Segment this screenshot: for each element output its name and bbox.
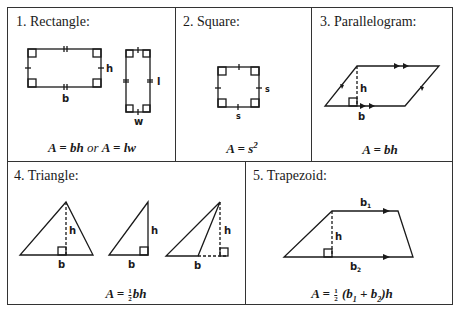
arrow-icon [403, 63, 409, 69]
label-subscript: 2 [357, 266, 361, 273]
label-h: h [360, 83, 367, 94]
arrow-icon [383, 254, 390, 260]
arrow-icon [360, 103, 366, 109]
label-b: b [194, 260, 201, 271]
label-b: b [358, 111, 365, 122]
arrow-icon [383, 208, 390, 214]
label-w: w [134, 116, 143, 127]
square-figure [215, 64, 262, 110]
triangle-right-figure [109, 202, 148, 255]
label-b: b [128, 259, 135, 270]
rectangle-tall-figure [123, 47, 153, 115]
label-h: h [335, 231, 342, 242]
label-h: h [69, 225, 76, 236]
trapezoid-figure [284, 211, 413, 257]
triangle-acute-figure [20, 202, 93, 255]
rectangle-figure [25, 46, 104, 90]
label-h: h [106, 63, 113, 74]
label-h: h [224, 225, 231, 236]
label-s: s [236, 112, 241, 121]
triangle-obtuse-figure [166, 202, 228, 256]
label-l: l [157, 76, 160, 87]
label-b: b [58, 259, 65, 270]
figures: b h l w s s h b h b h b h b h b 1 b 2 [0, 0, 464, 318]
label-h: h [151, 225, 158, 236]
label-subscript: 1 [367, 202, 371, 209]
arrow-icon [394, 63, 400, 69]
label-s: s [265, 85, 270, 94]
arrow-icon [369, 103, 375, 109]
label-b: b [62, 93, 69, 104]
